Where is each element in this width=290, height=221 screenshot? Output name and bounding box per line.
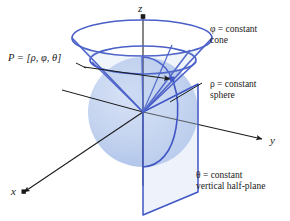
annotation-cone: φ = constant cone [210,24,257,45]
annotation-cone-line1: φ = constant [210,24,257,35]
spherical-coordinates-figure: z y x P = [ρ, φ, θ] φ = constant cone ρ … [0,0,290,221]
x-axis-tip [22,189,26,193]
z-axis-tip [141,14,146,19]
z-axis-label: z [138,2,142,14]
annotation-half-plane: θ = constant vertical half-plane [196,170,265,191]
x-axis-label: x [11,185,16,197]
point-P-marker [170,77,174,81]
y-axis-label: y [270,134,275,146]
annotation-sphere-line1: ρ = constant [210,79,257,90]
point-p-label: P = [ρ, φ, θ] [8,52,61,64]
annotation-half-plane-line2: vertical half-plane [196,181,265,192]
point-label-tail [76,63,86,68]
cone-rim-ellipse [72,20,212,56]
annotation-half-plane-line1: θ = constant [196,170,265,181]
annotation-sphere: ρ = constant sphere [210,79,257,100]
annotation-cone-line2: cone [210,35,257,46]
annotation-sphere-line2: sphere [210,90,257,101]
